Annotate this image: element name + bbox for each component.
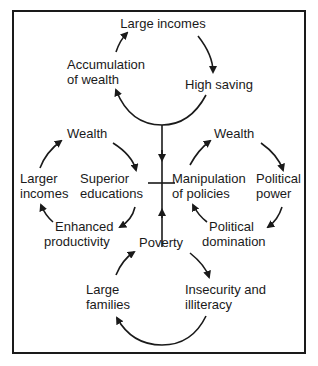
arrow-wealth-to-power — [261, 143, 283, 170]
arrow-poverty-to-insecurity — [190, 253, 209, 277]
arrow-large-to-saving — [198, 36, 213, 72]
arrow-families-to-poverty — [116, 252, 134, 275]
node-accumulation-line1: Accumulation — [67, 57, 145, 73]
node-left-wealth: Wealth — [67, 126, 107, 142]
node-power-line1: Political — [256, 171, 301, 187]
node-superior-line1: Superior — [80, 171, 129, 187]
arrow-insecurity-to-families — [117, 316, 206, 345]
arrow-domination-to-manipulation — [193, 205, 207, 222]
arrow-wealth-to-superior — [113, 143, 136, 170]
node-insecurity-line1: Insecurity and — [185, 282, 266, 298]
node-families-line1: Large — [86, 282, 119, 298]
arrow-enhanced-to-larger — [41, 205, 53, 222]
node-power-line2: power — [256, 186, 291, 202]
node-enhanced-line1: Enhanced — [55, 219, 114, 235]
arrow-larger-to-wealth — [40, 141, 61, 168]
node-large-incomes: Large incomes — [110, 16, 216, 32]
node-domination-line2: domination — [202, 234, 266, 250]
node-domination-line1: Political — [209, 219, 254, 235]
arrow-manipulation-to-wealth — [190, 141, 210, 165]
node-larger-line2: incomes — [20, 186, 68, 202]
node-manipulation-line2: of policies — [172, 186, 230, 202]
arrow-accum-to-large — [116, 33, 127, 52]
arrow-superior-to-enhanced — [120, 207, 135, 227]
arrow-saving-to-accum — [116, 90, 206, 125]
node-high-saving: High saving — [185, 77, 253, 93]
node-insecurity-line2: illiteracy — [185, 297, 232, 313]
node-superior-line2: educations — [80, 186, 143, 202]
node-enhanced-line2: productivity — [44, 234, 110, 250]
node-manipulation-line1: Manipulation — [172, 171, 246, 187]
node-families-line2: families — [86, 297, 130, 313]
node-poverty: Poverty — [139, 235, 183, 251]
node-accumulation-line2: of wealth — [67, 72, 119, 88]
arrow-power-to-domination — [268, 207, 282, 227]
node-right-wealth: Wealth — [214, 126, 254, 142]
node-larger-line1: Larger — [20, 171, 58, 187]
